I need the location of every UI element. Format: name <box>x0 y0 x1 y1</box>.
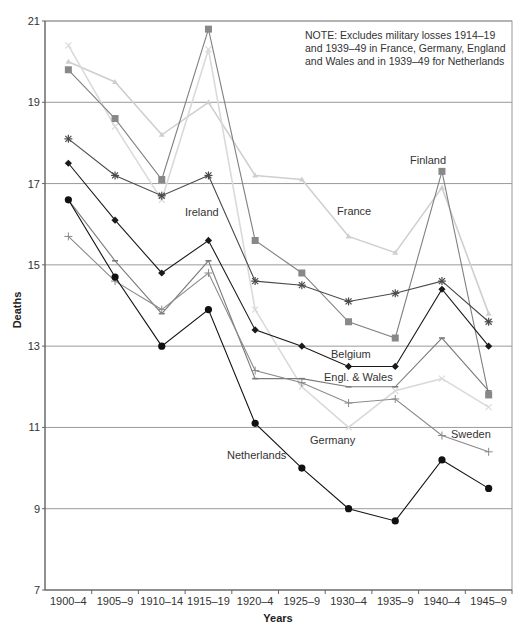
circle-marker-icon <box>438 456 445 463</box>
plus-marker-icon <box>251 367 259 375</box>
note-line-1: NOTE: Excludes military losses 1914–19 <box>305 29 495 41</box>
diamond-marker-icon <box>205 237 212 244</box>
asterisk-marker-icon <box>64 135 72 143</box>
x-tick-label: 1925–9 <box>283 595 320 607</box>
series-line <box>68 29 488 395</box>
series-engl-wales <box>65 200 491 391</box>
series-label: France <box>337 205 371 217</box>
plus-marker-icon <box>298 379 306 387</box>
note-line-3: and Wales and in 1939–49 for Netherlands <box>305 55 504 67</box>
square-marker-icon <box>158 176 165 183</box>
series-netherlands <box>65 196 493 524</box>
y-axis-title: Deaths <box>11 292 23 329</box>
square-marker-icon <box>298 269 305 276</box>
diamond-marker-icon <box>392 363 399 370</box>
x-axis-title: Years <box>263 612 292 624</box>
series-label: Finland <box>410 154 446 166</box>
circle-marker-icon <box>485 485 492 492</box>
asterisk-marker-icon <box>111 171 119 179</box>
asterisk-marker-icon <box>345 297 353 305</box>
x-tick-label: 1910–14 <box>140 595 183 607</box>
square-marker-icon <box>485 391 492 398</box>
y-tick-label: 19 <box>28 96 40 108</box>
circle-marker-icon <box>158 343 165 350</box>
asterisk-marker-icon <box>391 289 399 297</box>
asterisk-marker-icon <box>251 277 259 285</box>
circle-marker-icon <box>345 505 352 512</box>
square-marker-icon <box>65 66 72 73</box>
diamond-marker-icon <box>298 343 305 350</box>
y-tick-label: 9 <box>34 503 40 515</box>
x-marker-icon <box>112 124 118 130</box>
x-tick-label: 1915–19 <box>187 595 230 607</box>
square-marker-icon <box>112 115 119 122</box>
y-tick-label: 21 <box>28 15 40 27</box>
x-tick-label: 1945–9 <box>470 595 507 607</box>
x-tick-label: 1920–4 <box>237 595 274 607</box>
asterisk-marker-icon <box>298 281 306 289</box>
plus-marker-icon <box>485 448 493 456</box>
series-label: Netherlands <box>227 449 287 461</box>
circle-marker-icon <box>298 464 305 471</box>
square-marker-icon <box>205 26 212 33</box>
series-label: Belgium <box>331 348 371 360</box>
square-marker-icon <box>252 237 259 244</box>
series-label: Sweden <box>451 428 491 440</box>
square-marker-icon <box>345 318 352 325</box>
y-tick-label: 15 <box>28 259 40 271</box>
x-marker-icon <box>65 42 71 48</box>
triangle-marker-icon <box>439 185 445 190</box>
diamond-marker-icon <box>252 326 259 333</box>
y-tick-label: 11 <box>29 421 40 433</box>
series-label: Engl. & Wales <box>324 371 393 383</box>
x-tick-label: 1905–9 <box>97 595 134 607</box>
diamond-marker-icon <box>345 363 352 370</box>
series-sweden <box>64 232 492 455</box>
series-label: Germany <box>310 434 356 446</box>
y-tick-label: 13 <box>28 340 40 352</box>
circle-marker-icon <box>392 517 399 524</box>
asterisk-marker-icon <box>158 192 166 200</box>
triangle-marker-icon <box>65 59 71 64</box>
square-marker-icon <box>392 335 399 342</box>
plot-frame <box>45 21 512 590</box>
note-line-2: and 1939–49 in France, Germany, England <box>305 42 506 54</box>
x-axis: 1900–41905–91910–141915–191920–41925–919… <box>50 590 512 607</box>
asterisk-marker-icon <box>204 171 212 179</box>
circle-marker-icon <box>111 273 118 280</box>
triangle-marker-icon <box>486 311 492 316</box>
y-tick-label: 17 <box>28 178 40 190</box>
note-annotation: NOTE: Excludes military losses 1914–19 a… <box>305 29 506 67</box>
death-rate-line-chart: 79111315171921 1900–41905–91910–141915–1… <box>0 0 524 635</box>
asterisk-marker-icon <box>485 318 493 326</box>
series-line <box>68 200 488 521</box>
plus-marker-icon <box>345 399 353 407</box>
series-labels: FinlandFranceIrelandBelgiumEngl. & Wales… <box>185 154 491 461</box>
series-finland <box>65 26 492 399</box>
series-line <box>68 236 488 451</box>
square-marker-icon <box>438 168 445 175</box>
x-tick-label: 1930–4 <box>330 595 367 607</box>
series-label: Ireland <box>185 206 219 218</box>
x-tick-label: 1935–9 <box>377 595 414 607</box>
x-marker-icon <box>486 404 492 410</box>
series-line <box>68 62 488 314</box>
y-tick-label: 7 <box>34 584 40 596</box>
circle-marker-icon <box>65 196 72 203</box>
x-tick-label: 1900–4 <box>50 595 87 607</box>
circle-marker-icon <box>252 420 259 427</box>
asterisk-marker-icon <box>438 277 446 285</box>
circle-marker-icon <box>205 306 212 313</box>
x-tick-label: 1940–4 <box>424 595 461 607</box>
